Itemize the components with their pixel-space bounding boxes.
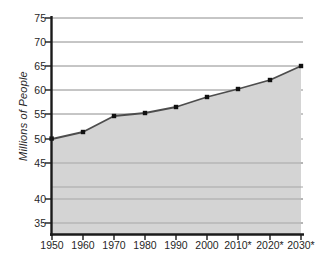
x-tick-label: 2030* (278, 240, 323, 251)
area-fill (52, 66, 301, 235)
data-point-marker (81, 130, 85, 134)
y-axis-ticks (45, 18, 51, 223)
data-point-marker (299, 64, 303, 68)
plot-area (0, 0, 323, 274)
data-point-marker (143, 111, 147, 115)
data-point-marker (205, 95, 209, 99)
population-area-chart: Millions of People 75 70 65 60 55 50 45 … (0, 0, 323, 274)
data-point-marker (268, 78, 272, 82)
data-point-marker (174, 105, 178, 109)
data-point-marker (112, 114, 116, 118)
data-point-marker (236, 87, 240, 91)
